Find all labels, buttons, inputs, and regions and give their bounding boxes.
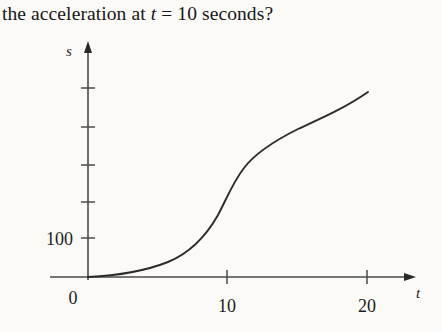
y-axis-arrow-icon	[84, 41, 92, 53]
x-axis-label: t	[416, 285, 421, 301]
origin-label: 0	[69, 288, 78, 308]
question-suffix: = 10 seconds?	[156, 3, 273, 24]
y-axis-label: s	[66, 43, 72, 59]
graph-svg: s t 100 10 20 0	[0, 30, 442, 332]
y-tick-label-100: 100	[46, 229, 73, 249]
question-text: the acceleration at t = 10 seconds?	[2, 0, 440, 27]
x-tick-label-10: 10	[218, 296, 236, 316]
x-tick-label-20: 20	[358, 296, 376, 316]
question-prefix: the acceleration at	[2, 3, 151, 24]
graph-figure: s t 100 10 20 0	[0, 30, 442, 332]
curve-position-function	[88, 92, 368, 277]
textbook-figure-page: the acceleration at t = 10 seconds?	[0, 0, 442, 332]
x-axis-arrow-icon	[404, 273, 416, 281]
